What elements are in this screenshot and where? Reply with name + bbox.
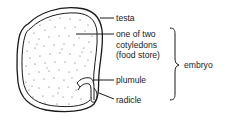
seed-diagram: testa one of two cotyledons (food store)… [0,0,231,129]
plumule-label: plumule [116,75,146,85]
cotyledon-label-line2: cotyledons [116,40,160,51]
radicle-leader-line [99,93,114,99]
radicle-label: radicle [116,95,141,105]
cotyledon-label-line1: one of two [116,29,160,40]
cotyledon-label: one of two cotyledons (food store) [116,29,160,61]
stipple-dots [25,17,92,104]
testa-label: testa [116,13,135,23]
embryo-label: embryo [184,60,213,70]
embryo-bracket [170,28,179,100]
plumule-shape [77,78,94,101]
cotyledon-label-line3: (food store) [116,50,160,61]
